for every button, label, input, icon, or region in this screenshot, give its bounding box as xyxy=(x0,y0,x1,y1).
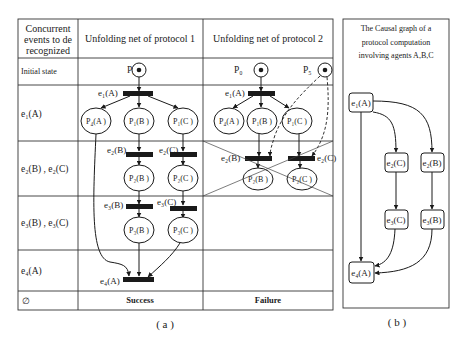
protocol2-net: P₀ P₅ e₁(A) P₄(A ) P₁(B ) P₁(C ) e₂(B) e… xyxy=(203,63,336,305)
node-label-e3b: e₃(B) xyxy=(422,215,441,225)
p2-transition-label-e1: e₁(A) xyxy=(225,88,245,98)
p1-place-label-p1c: P₁(C ) xyxy=(173,117,193,126)
token-icon xyxy=(323,68,328,73)
protocol1-net: P₀ e₁(A) P₄(A ) P₁(B ) P₁(C ) e₂(B) e₂(C… xyxy=(81,63,198,305)
row-label-e1: e₁(A) xyxy=(21,109,42,120)
protocol1-result: Success xyxy=(126,295,154,305)
p1-transition-label-e1: e₁(A) xyxy=(98,88,118,98)
p1-place-label-p2b: P₂(B ) xyxy=(129,174,149,183)
header-col0-line2: events to de xyxy=(24,34,72,45)
row-labels: Initial state e₁(A) e₂(B) , e₂(C) e₃(B) … xyxy=(21,67,69,306)
p1-transition-label-e4: e₄(A) xyxy=(100,276,120,286)
p2-place-label-p1c: P₁(C ) xyxy=(287,117,307,126)
row-label-initial: Initial state xyxy=(21,67,57,76)
p2-place-label-p1b: P₁(B ) xyxy=(252,117,272,126)
row-label-e3: e₃(B) , e₃(C) xyxy=(21,218,69,229)
header-protocol1: Unfolding net of protocol 1 xyxy=(85,33,195,44)
row-label-e4: e₄(A) xyxy=(21,266,42,277)
token-icon xyxy=(137,68,142,73)
p1-transition-label-e2c: e₂(C) xyxy=(159,145,178,155)
p2-transition-label-e2b: e₂(B) xyxy=(221,153,240,163)
p1-transition-label-e3c: e₃(C) xyxy=(157,197,176,207)
p1-transition-label-e3b: e₃(B) xyxy=(104,200,123,210)
header-col0-line1: Concurrent xyxy=(26,23,71,34)
p1-place-label-p4a: P₄(A ) xyxy=(86,117,106,126)
row-label-e2: e₂(B) , e₂(C) xyxy=(21,164,69,175)
p1-place-label-p2c: P₂(C ) xyxy=(173,174,193,183)
panel-b-title-line3: involving agents A,B,C xyxy=(358,51,433,60)
p2-place-label-p0: P₀ xyxy=(234,65,243,75)
caption-b: ( b ) xyxy=(388,316,407,329)
p2-transition-label-e2c: e₂(C) xyxy=(317,153,336,163)
figure-b-causal-graph: The Causal graph of a protocol computati… xyxy=(343,19,449,308)
node-label-e2b: e₂(B) xyxy=(422,158,441,168)
protocol2-result: Failure xyxy=(255,295,282,305)
p1-place-label-p3c: P₃(C ) xyxy=(173,226,193,235)
header-col0-line3: recognized xyxy=(26,45,70,56)
node-label-e4a: e₄(A) xyxy=(351,268,371,278)
node-label-e2c: e₂(C) xyxy=(386,158,405,168)
panel-b-title-line1: The Causal graph of a xyxy=(361,24,432,33)
p1-transition-e2b xyxy=(126,152,153,157)
row-label-empty: ∅ xyxy=(22,296,30,306)
header-protocol2: Unfolding net of protocol 2 xyxy=(213,33,323,44)
p2-place-label-p2b: P₂(B ) xyxy=(248,175,268,184)
node-label-e3c: e₃(C) xyxy=(386,215,405,225)
p1-transition-label-e2b: e₂(B) xyxy=(107,145,126,155)
table-header: Concurrent events to de recognized Unfol… xyxy=(24,23,323,56)
p1-transition-e3b xyxy=(126,204,153,209)
caption-a: ( a ) xyxy=(156,318,174,331)
p1-place-label-p1b: P₁(B ) xyxy=(129,117,149,126)
p2-place-label-p5: P₅ xyxy=(303,65,312,75)
panel-b-title-line2: protocol computation xyxy=(362,38,431,47)
node-label-e1a: e₁(A) xyxy=(351,98,371,108)
figure-canvas: Concurrent events to de recognized Unfol… xyxy=(0,0,464,349)
p1-transition-e4 xyxy=(123,277,154,282)
p1-transition-e1 xyxy=(123,91,153,96)
p2-place-label-p4a: P₄(A ) xyxy=(219,117,239,126)
p1-place-label-p3b: P₃(B ) xyxy=(129,226,149,235)
token-icon xyxy=(259,68,264,73)
p2-transition-e1 xyxy=(248,91,275,96)
